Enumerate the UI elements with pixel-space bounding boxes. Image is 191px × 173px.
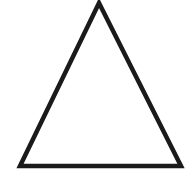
drawing-canvas bbox=[0, 0, 191, 173]
triangle-svg bbox=[0, 0, 191, 173]
